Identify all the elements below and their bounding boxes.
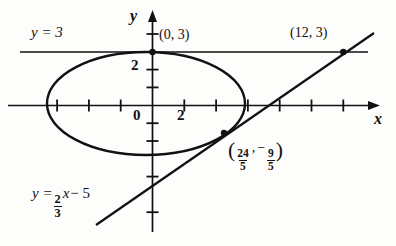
intersection-x-numerator: 24: [236, 148, 249, 160]
intersection-x-denominator: 5: [239, 160, 247, 173]
y-tick-label-2: 2: [131, 58, 139, 73]
x-axis-arrowhead: [368, 101, 380, 110]
x-axis-label: x: [374, 111, 382, 127]
slanted-line-slope-fraction: 23: [54, 193, 62, 219]
x-axis: [8, 101, 380, 110]
point-marker-intersection: [221, 130, 227, 136]
intersection-y-sign: −: [256, 140, 266, 155]
paren-open: (: [228, 138, 235, 162]
intersection-x-fraction: 245: [236, 148, 249, 172]
label-point-intersection: (245,−95): [228, 140, 283, 172]
label-horizontal-line: y = 3: [31, 25, 63, 40]
math-figure: y x 2 0 2 y = 3 (0, 3) (12, 3) y =23x− 5…: [0, 0, 396, 246]
intersection-y-fraction: 95: [267, 148, 275, 172]
point-marker-0-3: [149, 49, 155, 55]
paren-close: ): [276, 138, 283, 162]
x-tick-label-2: 2: [177, 108, 185, 123]
y-axis-arrowhead: [148, 10, 157, 22]
intersection-y-numerator: 9: [267, 148, 275, 160]
slanted-line-prefix: y =: [32, 185, 53, 201]
label-point-0-3: (0, 3): [159, 28, 189, 42]
label-slanted-line: y =23x− 5: [32, 186, 91, 219]
y-axis: [148, 10, 157, 232]
slope-denominator: 3: [54, 206, 62, 220]
slope-numerator: 2: [54, 193, 62, 206]
y-axis-label: y: [130, 8, 137, 24]
point-marker-12-3: [340, 49, 346, 55]
origin-label: 0: [133, 108, 141, 123]
intersection-y-denominator: 5: [267, 160, 275, 173]
label-point-12-3: (12, 3): [290, 26, 327, 40]
slanted-line-constant: − 5: [69, 185, 91, 201]
